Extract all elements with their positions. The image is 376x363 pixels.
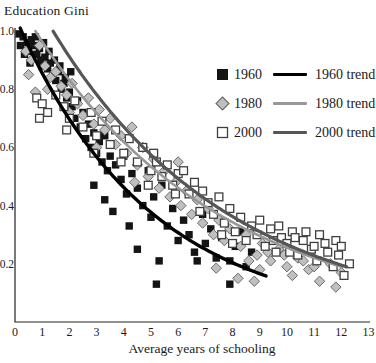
- legend-marker-1980-diamond-icon: [215, 96, 230, 111]
- data-point-2000: [196, 208, 204, 216]
- x-tick-label: 8: [230, 325, 236, 340]
- data-point-1960: [126, 222, 133, 229]
- data-point-2000: [275, 222, 283, 230]
- education-gini-figure: Education Gini 1.00.80.60.40.2 012345678…: [0, 0, 376, 363]
- y-tick-label: 0.8: [0, 83, 14, 95]
- x-tick-label: 6: [175, 325, 181, 340]
- data-point-2000: [120, 149, 128, 157]
- data-point-2000: [144, 181, 152, 189]
- data-point-2000: [218, 231, 226, 239]
- legend-trend-label-1980: 1980 trend: [315, 96, 375, 112]
- data-point-2000: [172, 190, 180, 198]
- legend-trendline-2000-swatch: [273, 131, 307, 134]
- x-tick-label: 12: [335, 325, 347, 340]
- y-tick-label: 0.2: [0, 258, 14, 270]
- data-point-2000: [256, 216, 264, 224]
- data-point-2000: [316, 231, 324, 239]
- legend-series-label-1960: 1960: [234, 67, 268, 83]
- x-tick-label: 7: [202, 325, 208, 340]
- x-tick-label: 10: [281, 325, 293, 340]
- scatter-plot-canvas: [0, 0, 376, 363]
- legend-trend-label-2000: 2000 trend: [315, 125, 375, 141]
- legend-marker-2000-open-square-icon: [215, 125, 230, 140]
- data-point-2000: [302, 228, 310, 236]
- data-point-2000: [44, 109, 52, 117]
- data-point-2000: [229, 240, 237, 248]
- legend-row-1980: 1980 1980 trend: [215, 89, 375, 118]
- data-point-2000: [310, 242, 318, 250]
- data-point-1980: [173, 157, 183, 167]
- data-point-1960: [191, 248, 198, 255]
- data-point-2000: [242, 237, 250, 245]
- data-point-2000: [38, 100, 46, 108]
- data-point-2000: [93, 132, 101, 140]
- data-point-1960: [90, 182, 97, 189]
- data-point-2000: [191, 178, 199, 186]
- data-point-1960: [17, 42, 24, 49]
- data-point-1960: [153, 280, 160, 287]
- data-point-1960: [226, 280, 233, 287]
- x-tick-label: 2: [66, 325, 72, 340]
- data-point-2000: [133, 158, 141, 166]
- x-tick-label: 5: [148, 325, 154, 340]
- data-point-1980: [23, 69, 33, 79]
- data-point-1980: [282, 262, 292, 272]
- data-point-1960: [150, 193, 157, 200]
- data-point-2000: [180, 167, 188, 175]
- data-point-1960: [134, 246, 141, 253]
- y-tick-label: 1.0: [0, 25, 14, 37]
- data-point-2000: [261, 242, 269, 250]
- data-point-2000: [267, 225, 275, 233]
- data-point-2000: [340, 272, 348, 280]
- data-point-1960: [67, 68, 74, 75]
- x-tick-label: 11: [308, 325, 320, 340]
- data-point-2000: [337, 242, 345, 250]
- data-point-1980: [265, 256, 275, 266]
- data-point-1960: [155, 257, 162, 264]
- x-tick-label: 4: [121, 325, 127, 340]
- data-point-1960: [128, 170, 135, 177]
- legend-series-label-1980: 1980: [234, 96, 268, 112]
- legend-row-2000: 2000 2000 trend: [215, 118, 375, 147]
- data-point-2000: [324, 248, 332, 256]
- x-tick-label: 13: [363, 325, 375, 340]
- data-point-1980: [249, 276, 259, 286]
- data-point-2000: [272, 248, 280, 256]
- x-tick-label: 9: [257, 325, 263, 340]
- legend-marker-1960-square-icon: [215, 67, 230, 82]
- data-point-1960: [193, 257, 200, 264]
- legend: 1960 1960 trend 1980 1980 trend 2000 200…: [215, 60, 375, 147]
- data-point-1980: [176, 200, 186, 210]
- data-point-1960: [101, 196, 108, 203]
- data-point-1980: [314, 276, 324, 286]
- data-point-1980: [197, 218, 207, 228]
- data-point-1960: [109, 208, 116, 215]
- legend-trendline-1980-swatch: [273, 102, 307, 105]
- data-point-2000: [36, 114, 44, 122]
- data-point-2000: [63, 126, 71, 134]
- legend-trend-label-1960: 1960 trend: [315, 67, 375, 83]
- data-point-2000: [117, 158, 125, 166]
- data-point-2000: [299, 237, 307, 245]
- legend-series-label-2000: 2000: [234, 125, 268, 141]
- x-axis-title: Average years of schooling: [128, 341, 275, 357]
- y-axis-title: Education Gini: [4, 3, 89, 19]
- data-point-1960: [106, 152, 113, 159]
- x-tick-label: 0: [12, 325, 18, 340]
- data-point-1980: [331, 282, 341, 292]
- data-point-1960: [174, 237, 181, 244]
- data-point-2000: [106, 141, 114, 149]
- data-point-2000: [291, 234, 299, 242]
- y-tick-label: 0.4: [0, 200, 14, 212]
- x-tick-label: 1: [39, 325, 45, 340]
- data-point-2000: [231, 228, 239, 236]
- data-point-1980: [233, 273, 243, 283]
- data-point-2000: [335, 251, 343, 259]
- data-point-2000: [71, 97, 79, 105]
- data-point-2000: [226, 205, 234, 213]
- data-point-2000: [215, 193, 223, 201]
- legend-trendline-1960-swatch: [273, 73, 307, 76]
- data-point-2000: [321, 240, 329, 248]
- legend-row-1960: 1960 1960 trend: [215, 60, 375, 89]
- x-tick-label: 3: [94, 325, 100, 340]
